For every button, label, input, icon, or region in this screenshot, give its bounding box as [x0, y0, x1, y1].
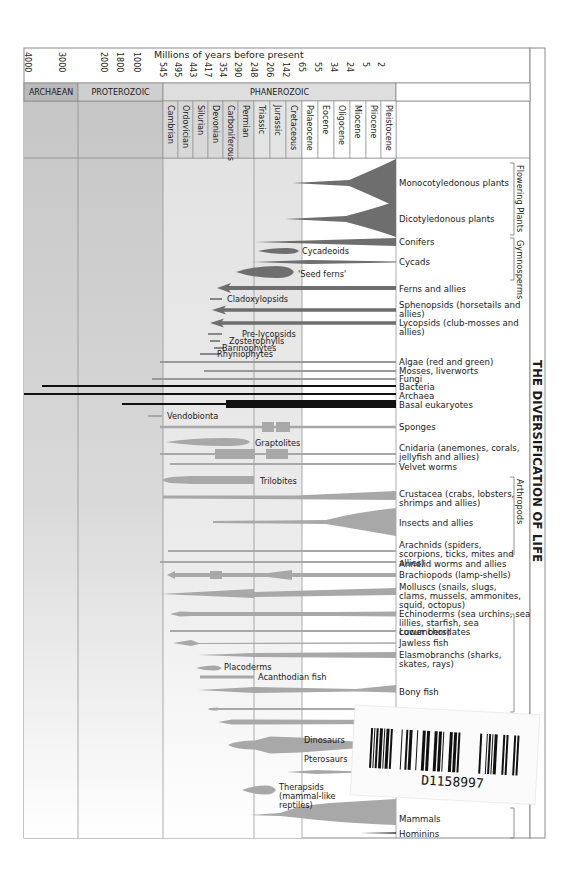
lineage-label: Cycadeoids: [302, 246, 349, 256]
lineage-label-line: Dicotyledonous plants: [399, 214, 495, 224]
period-label: Eocene: [321, 105, 330, 134]
lineage-label-line: Cycadeoids: [302, 246, 349, 256]
lineage-label: Dinosaurs: [304, 735, 345, 745]
lineage-label: Pterosaurs: [304, 754, 347, 764]
axis-tick-label: 248: [249, 62, 258, 77]
lineage-label-line: Rhyniophytes: [217, 349, 273, 359]
lineage-label-line: Ferns and allies: [399, 284, 466, 294]
lineage-label-line: allies): [399, 327, 425, 337]
lineage-label: Ferns and allies: [399, 284, 466, 294]
lineage-label-line: Bony fish: [399, 687, 439, 697]
period-label: Pliocene: [369, 105, 378, 139]
axis-tick-label: 545: [158, 62, 167, 77]
title-column: THE DIVERSIFICATION OF LIFE: [530, 360, 544, 563]
range-bar: [204, 370, 396, 372]
lineage-label: Lower chordates: [399, 627, 471, 637]
period-label: Permian: [241, 105, 250, 138]
lineage-label-line: jellyfish and allies): [398, 452, 479, 462]
period-label: Ordovician: [181, 105, 190, 148]
lineage-label-line: skates, rays): [399, 659, 454, 669]
group-label: Flowering Plants: [515, 165, 525, 232]
trilobite-shape: [162, 476, 254, 484]
range-bar: [152, 378, 396, 380]
lineage-label: Sponges: [399, 422, 436, 432]
range-block: [266, 449, 288, 459]
lineage-label-line: Conifers: [399, 237, 435, 247]
lineage-label-line: Annelid worms and allies: [399, 559, 507, 569]
axis-tick-label: 55: [313, 62, 322, 72]
sticker: D1158997: [350, 705, 539, 805]
range-bar: [160, 561, 396, 563]
lineage-label: Rhyniophytes: [217, 349, 273, 359]
lineage-label: 'Seed ferns': [298, 269, 346, 279]
echinoderm-shape: [170, 612, 396, 617]
lineage-label-line: shrimps and allies): [399, 498, 480, 508]
lineage-label: Hominins: [399, 829, 440, 839]
lineage-label-line: Insects and allies: [399, 518, 474, 528]
range-block: [276, 422, 290, 432]
lineage-label: Mammals: [399, 814, 441, 824]
lineage-label: Jawless fish: [398, 638, 449, 648]
lineage-label: Graptolites: [255, 438, 300, 448]
lineage-label-line: Vendobionta: [167, 411, 218, 421]
era-row-blank: [396, 83, 530, 101]
axis-tick-label: 3000: [57, 52, 66, 72]
period-label: Devonian: [211, 105, 220, 143]
range-bar: [208, 333, 222, 335]
barcode-sticker: D1158997: [350, 705, 539, 805]
range-block: [210, 571, 222, 579]
range-bar: [160, 361, 396, 363]
group-label: Gymnosperms: [515, 240, 525, 299]
lineage-label-line: Mammals: [399, 814, 441, 824]
period-label: Silurian: [196, 105, 205, 135]
lineage-label-line: Monocotyledonous plants: [399, 178, 509, 188]
range-bar: [148, 415, 162, 417]
lineage-label: Velvet worms: [399, 462, 457, 472]
lineage-label-line: Jawless fish: [398, 638, 449, 648]
lineage-label-line: Sponges: [399, 422, 436, 432]
lineage-label-line: Lower chordates: [399, 627, 471, 637]
range-bar: [168, 550, 396, 552]
range-bar: [200, 676, 254, 679]
range-block: [215, 449, 255, 459]
axis-tick-label: 1800: [115, 52, 124, 72]
lineage-label: Cycads: [399, 257, 431, 267]
lineage-label-line: Velvet worms: [399, 462, 457, 472]
axis-tick-label: 5: [361, 62, 370, 67]
range-bar: [210, 298, 222, 300]
range-bar: [24, 393, 396, 395]
lineage-label-line: Cladoxylopsids: [227, 294, 288, 304]
lineage-label: Brachiopods (lamp-shells): [399, 570, 511, 580]
lineage-label-line: Dinosaurs: [304, 735, 345, 745]
axis-tick-label: 1000: [132, 52, 141, 72]
lineage-label-line: 'Seed ferns': [298, 269, 346, 279]
axis-tick-label: 495: [173, 62, 182, 77]
lineage-label: Basal eukaryotes: [399, 400, 473, 410]
period-label: Pleistocene: [384, 105, 393, 151]
period-label: Triassic: [257, 104, 266, 134]
archaean-body-shade: [24, 101, 78, 838]
period-label: Cambrian: [166, 105, 175, 144]
era-label: ARCHAEAN: [29, 88, 73, 97]
lineage-label-line: Pterosaurs: [304, 754, 347, 764]
lineage-label: Trilobites: [259, 476, 297, 486]
lineage-label-line: Trilobites: [259, 476, 297, 486]
axis-tick-label: 24: [345, 62, 354, 72]
lineage-label: Insects and allies: [399, 518, 474, 528]
period-label: Carboniferous: [226, 105, 235, 161]
lineage-label: Dicotyledonous plants: [399, 214, 495, 224]
axis-tick-label: 2000: [99, 52, 108, 72]
era-label: PROTEROZOIC: [91, 88, 150, 97]
lineage-label: Bony fish: [399, 687, 439, 697]
period-label: Palaeocene: [305, 105, 314, 151]
range-bar: [170, 630, 396, 632]
lineage-label-line: Hominins: [399, 829, 440, 839]
lineage-label-line: Basal eukaryotes: [399, 400, 473, 410]
lineage-label: Cladoxylopsids: [227, 294, 288, 304]
group-label: Arthropods: [515, 479, 525, 524]
lineage-label: Placoderms: [224, 662, 271, 672]
axis-tick-label: 290: [233, 62, 242, 77]
lineage-label: Conifers: [399, 237, 435, 247]
lineage-label-line: Placoderms: [224, 662, 271, 672]
axis-tick-label: 354: [218, 62, 227, 77]
